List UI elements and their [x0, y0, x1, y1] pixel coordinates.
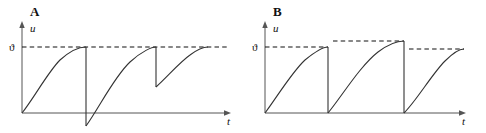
panel-b-y-axis-label: u	[273, 22, 279, 34]
panel-b-charge-curve-2	[328, 41, 404, 113]
panel-b-charge-curve-3	[404, 49, 464, 113]
panel-b-label: B	[273, 4, 282, 19]
panel-b: B u ϑ t	[252, 4, 466, 127]
panel-a-y-axis-arrowhead	[19, 21, 24, 28]
panel-a-charge-curve-2	[86, 47, 156, 126]
panel-a: A u ϑ t	[9, 4, 231, 127]
figure-svg: A u ϑ t B u ϑ t	[0, 0, 486, 133]
panel-a-charge-curve-3	[156, 47, 208, 87]
panel-a-label: A	[30, 4, 40, 19]
panel-b-charge-curve-1	[265, 47, 328, 113]
figure-container: A u ϑ t B u ϑ t	[0, 0, 486, 133]
panel-a-threshold-tick-label: ϑ	[9, 41, 15, 53]
panel-b-y-axis-arrowhead	[262, 21, 267, 28]
panel-a-x-axis-label: t	[227, 115, 231, 127]
panel-a-charge-curve-1	[22, 47, 86, 113]
panel-b-threshold-tick-label: ϑ	[252, 41, 258, 53]
panel-b-x-axis-label: t	[462, 115, 466, 127]
panel-a-y-axis-label: u	[30, 22, 36, 34]
